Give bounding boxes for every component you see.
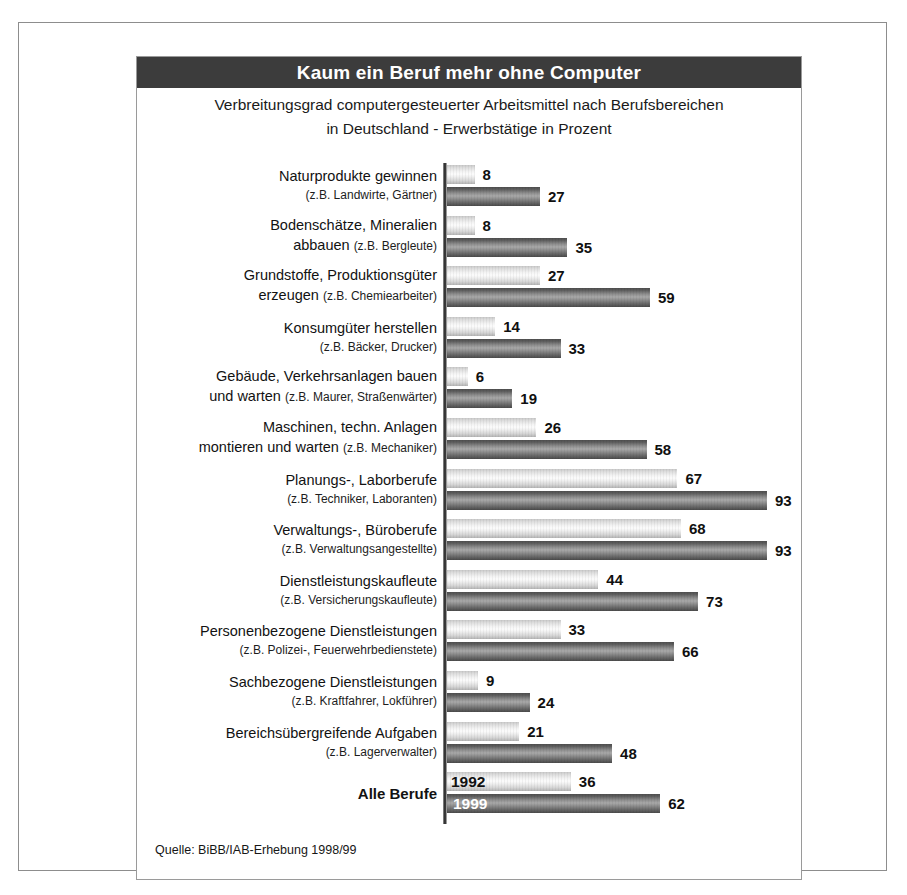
- bar-fill: [447, 541, 767, 560]
- bar-fill: [447, 744, 612, 763]
- bar-value-label: 58: [655, 440, 672, 459]
- chart-panel: Kaum ein Beruf mehr ohne Computer Verbre…: [136, 56, 802, 880]
- bar-value-label: 68: [689, 519, 706, 538]
- bar-fill: [447, 722, 519, 741]
- bar-1992: [447, 367, 468, 386]
- bar-value-label: 27: [548, 187, 565, 206]
- category-label-line-2: abbauen: [293, 237, 353, 253]
- bar-1999: [447, 339, 561, 358]
- category-example: (z.B. Versicherungskaufleute): [143, 591, 437, 610]
- bar-fill: [447, 187, 540, 206]
- category-label-line-1: Planungs-, Laborberufe: [143, 471, 437, 490]
- category-example: (z.B. Bergleute): [354, 239, 437, 253]
- bar-fill: [447, 389, 512, 408]
- bar-1999: [447, 238, 567, 257]
- category-example: (z.B. Lagerverwalter): [143, 743, 437, 762]
- bar-fill: [447, 693, 530, 712]
- bar-value-label: 19: [520, 389, 537, 408]
- bar-1999: [447, 389, 512, 408]
- bar-1992: [447, 418, 536, 437]
- category-example: (z.B. Maurer, Straßenwärter): [285, 390, 437, 404]
- category-label-line-1: Bodenschätze, Mineralien: [143, 216, 437, 235]
- bar-fill: [447, 671, 478, 690]
- bar-1992: [447, 317, 495, 336]
- bar-value-label: 33: [569, 620, 586, 639]
- category-label-line-2: erzeugen: [258, 287, 323, 303]
- bar-value-label: 66: [682, 642, 699, 661]
- category-example: (z.B. Techniker, Laboranten): [143, 490, 437, 509]
- bar-value-label: 33: [569, 339, 586, 358]
- category-label: Gebäude, Verkehrsanlagen bauenund warten…: [143, 367, 437, 407]
- bar-group: Dienstleistungskaufleute(z.B. Versicheru…: [137, 568, 801, 618]
- category-label-line-1: Konsumgüter herstellen: [143, 319, 437, 338]
- bar-fill: [447, 288, 650, 307]
- bar-1999: [447, 288, 650, 307]
- bar-value-label: 14: [503, 317, 520, 336]
- category-label-line-1: Gebäude, Verkehrsanlagen bauen: [143, 367, 437, 386]
- category-label-line-1: Bereichsübergreifende Aufgaben: [143, 724, 437, 743]
- bar-group: Verwaltungs-, Büroberufe(z.B. Verwaltung…: [137, 517, 801, 567]
- chart-subtitle: Verbreitungsgrad computergesteuerter Arb…: [137, 93, 801, 141]
- bar-fill: [447, 216, 475, 235]
- category-label-line-1: Dienstleistungskaufleute: [143, 572, 437, 591]
- bar-value-label: 73: [706, 592, 723, 611]
- bar-group: Gebäude, Verkehrsanlagen bauenund warten…: [137, 365, 801, 415]
- bar-1999: [447, 693, 530, 712]
- bar-value-label: 62: [668, 794, 685, 813]
- bar-fill: [447, 570, 598, 589]
- bar-group: Personenbezogene Dienstleistungen(z.B. P…: [137, 618, 801, 668]
- bar-fill: [447, 519, 681, 538]
- bar-1992: [447, 266, 540, 285]
- bar-value-label: 27: [548, 266, 565, 285]
- category-label: Alle Berufe: [143, 784, 437, 803]
- bar-fill: [447, 418, 536, 437]
- bar-fill: [447, 238, 567, 257]
- bar-1999: [447, 187, 540, 206]
- bar-fill: [447, 620, 561, 639]
- bar-1992: [447, 216, 475, 235]
- bar-1999: [447, 491, 767, 510]
- chart-subtitle-line-2: in Deutschland - Erwerbstätige in Prozen…: [137, 117, 801, 141]
- category-label: Personenbezogene Dienstleistungen(z.B. P…: [143, 622, 437, 660]
- bar-fill: [447, 339, 561, 358]
- bar-1992: [447, 722, 519, 741]
- bar-group: Naturprodukte gewinnen(z.B. Landwirte, G…: [137, 163, 801, 213]
- category-label-line-2: und warten: [209, 388, 285, 404]
- bar-value-label: 21: [527, 722, 544, 741]
- category-label-line-1: Verwaltungs-, Büroberufe: [143, 521, 437, 540]
- plot-area: Naturprodukte gewinnen(z.B. Landwirte, G…: [137, 161, 801, 826]
- bar-1999: [447, 541, 767, 560]
- chart-subtitle-line-1: Verbreitungsgrad computergesteuerter Arb…: [137, 93, 801, 117]
- bar-value-label: 93: [775, 491, 792, 510]
- bar-value-label: 6: [476, 367, 484, 386]
- bar-value-label: 9: [486, 671, 494, 690]
- bar-value-label: 93: [775, 541, 792, 560]
- category-label: Sachbezogene Dienstleistungen(z.B. Kraft…: [143, 673, 437, 711]
- bar-group: Bodenschätze, Mineralienabbauen (z.B. Be…: [137, 214, 801, 264]
- bar-value-label: 8: [483, 165, 491, 184]
- bar-value-label: 8: [483, 216, 491, 235]
- bar-value-label: 26: [544, 418, 561, 437]
- source-note: Quelle: BiBB/IAB-Erhebung 1998/99: [155, 843, 357, 857]
- page-title: Kaum ein Beruf mehr ohne Computer: [297, 62, 641, 84]
- category-label-line-1: Grundstoffe, Produktionsgüter: [143, 266, 437, 285]
- bar-1999: [447, 440, 647, 459]
- bar-fill: [447, 642, 674, 661]
- category-label: Bodenschätze, Mineralienabbauen (z.B. Be…: [143, 216, 437, 256]
- category-label-line-2: montieren und warten: [199, 439, 343, 455]
- poster-outer-frame: Kaum ein Beruf mehr ohne Computer Verbre…: [18, 22, 887, 871]
- category-example: (z.B. Landwirte, Gärtner): [143, 186, 437, 205]
- category-example: (z.B. Polizei-, Feuerwehrbedienstete): [143, 641, 437, 660]
- bar-1992: [447, 671, 478, 690]
- bar-value-label: 67: [685, 469, 702, 488]
- category-label: Bereichsübergreifende Aufgaben(z.B. Lage…: [143, 724, 437, 762]
- bar-group: Maschinen, techn. Anlagenmontieren und w…: [137, 416, 801, 466]
- bar-fill: [447, 469, 677, 488]
- bar-group: Konsumgüter herstellen(z.B. Bäcker, Druc…: [137, 315, 801, 365]
- category-label: Dienstleistungskaufleute(z.B. Versicheru…: [143, 572, 437, 610]
- bar-value-label: 35: [575, 238, 592, 257]
- bar-1992: [447, 165, 475, 184]
- series-caption-1999: 1999: [453, 794, 487, 813]
- category-label-line-1: Sachbezogene Dienstleistungen: [143, 673, 437, 692]
- bar-1992: [447, 620, 561, 639]
